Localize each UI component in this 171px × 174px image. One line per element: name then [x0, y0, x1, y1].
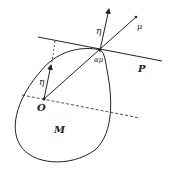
mu-ray	[44, 17, 136, 99]
label-region-m: M	[53, 124, 66, 135]
diagram: η μ αμ P η O M	[0, 0, 171, 174]
region-m-boundary	[15, 48, 110, 161]
label-eta-top: η	[96, 26, 102, 36]
label-mu: μ	[137, 22, 142, 31]
label-alpha-mu: αμ	[94, 56, 104, 64]
label-plane-p: P	[137, 63, 146, 74]
label-eta-origin: η	[39, 77, 45, 87]
label-origin: O	[37, 102, 46, 113]
diagram-canvas: η μ αμ P η O M	[0, 0, 171, 174]
mu-point	[135, 16, 138, 19]
